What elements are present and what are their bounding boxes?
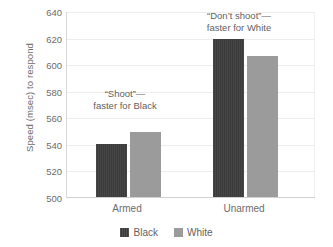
x-tick-label-armed: Armed xyxy=(112,203,141,214)
bar-armed-white xyxy=(130,132,161,197)
y-tick-label: 640 xyxy=(30,7,62,18)
annotation-unarmed: “Don’t shoot”— faster for White xyxy=(185,10,293,33)
y-tick-label: 500 xyxy=(30,193,62,204)
gridline xyxy=(67,39,315,40)
y-tick-label: 600 xyxy=(30,60,62,71)
legend-label: Black xyxy=(133,227,157,238)
x-tick-label-unarmed: Unarmed xyxy=(223,203,264,214)
legend-swatch-icon xyxy=(120,228,129,237)
annotation-unarmed-line1: “Don’t shoot”— xyxy=(185,10,293,22)
y-tick-label: 580 xyxy=(30,86,62,97)
x-axis-tick-labels: Armed Unarmed xyxy=(66,203,315,217)
legend-swatch-icon xyxy=(174,228,183,237)
y-tick-label: 620 xyxy=(30,33,62,44)
annotation-unarmed-line2: faster for White xyxy=(185,22,293,34)
annotation-armed-line2: faster for Black xyxy=(77,100,173,112)
bar-unarmed-white xyxy=(247,56,278,197)
gridline xyxy=(67,118,315,119)
y-tick-label: 540 xyxy=(30,139,62,150)
y-axis-tick-labels: 640 620 600 580 560 540 520 500 xyxy=(30,0,62,247)
annotation-armed: “Shoot”— faster for Black xyxy=(77,88,173,111)
legend-label: White xyxy=(187,227,213,238)
bar-chart-figure: Speed (msec) to respond 640 620 600 580 … xyxy=(0,0,333,247)
bar-unarmed-black xyxy=(213,39,244,197)
legend-entry-black: Black xyxy=(120,227,157,238)
y-tick-label: 560 xyxy=(30,113,62,124)
y-tick-label: 520 xyxy=(30,166,62,177)
legend-entry-white: White xyxy=(174,227,213,238)
bar-armed-black xyxy=(96,144,127,197)
plot-frame-right-edge xyxy=(314,12,315,197)
gridline xyxy=(67,65,315,66)
annotation-armed-line1: “Shoot”— xyxy=(77,88,173,100)
chart-legend: Black White xyxy=(0,227,333,238)
